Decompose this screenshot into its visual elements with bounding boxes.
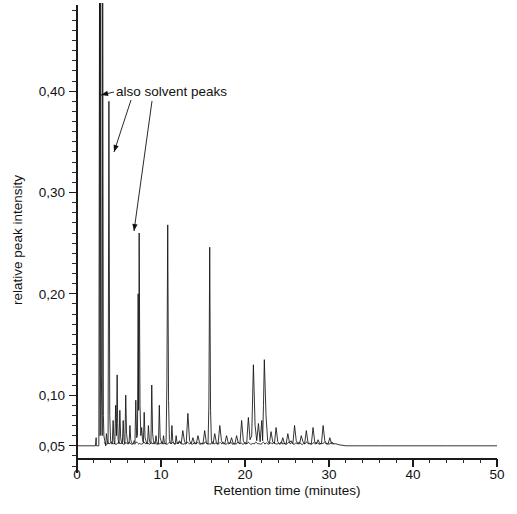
annotation-leader-line — [134, 101, 152, 231]
y-axis-title: relative peak intensity — [10, 175, 25, 305]
x-tick-label: 30 — [321, 467, 336, 482]
annotation-leader-line — [114, 100, 131, 152]
chromatogram-trace — [77, 3, 497, 446]
chromatogram-plot: 0,050,100,200,300,4001020304050 also sol… — [0, 0, 517, 514]
x-tick-label: 50 — [489, 467, 504, 482]
annotation-arrowhead — [101, 91, 108, 96]
chromatogram-figure: 0,050,100,200,300,4001020304050 also sol… — [0, 0, 517, 514]
x-tick-label: 10 — [153, 467, 168, 482]
x-tick-label: 0 — [73, 467, 81, 482]
y-tick-label: 0,40 — [39, 84, 65, 99]
annotation-arrowhead — [132, 224, 137, 231]
annotation-label: also solvent peaks — [116, 84, 227, 99]
annotations: also solvent peaks — [101, 84, 227, 231]
axes — [69, 5, 497, 473]
x-tick-label: 20 — [237, 467, 252, 482]
y-tick-label: 0,30 — [39, 185, 65, 200]
y-tick-label: 0,05 — [39, 439, 65, 454]
annotation-arrowhead — [114, 145, 119, 152]
y-tick-label: 0,20 — [39, 287, 65, 302]
x-tick-label: 40 — [405, 467, 420, 482]
y-tick-label: 0,10 — [39, 388, 65, 403]
x-axis-title: Retention time (minutes) — [213, 483, 360, 498]
trace-path — [77, 3, 497, 446]
